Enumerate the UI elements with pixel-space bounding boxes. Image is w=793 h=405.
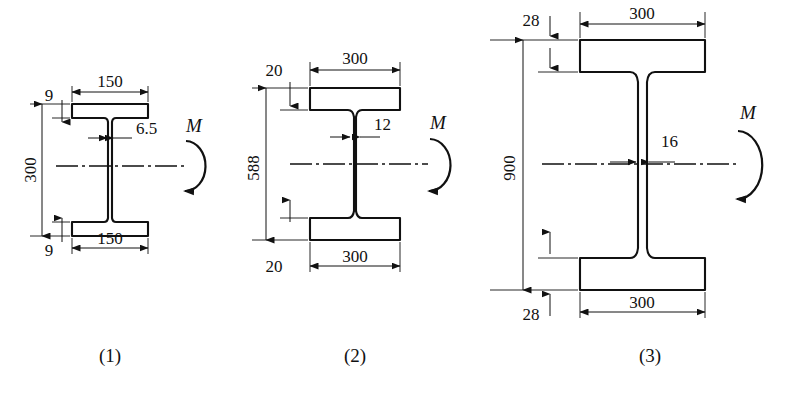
section-3-bfw-label: 300 xyxy=(629,293,655,312)
section-3-group: 900 28 28 300 300 16 xyxy=(490,4,762,367)
section-2-moment-arc xyxy=(429,139,451,191)
section-2-bfw-label: 300 xyxy=(342,247,368,266)
section-1-tft-label: 9 xyxy=(45,86,54,105)
section-1-group: 300 9 9 150 150 6.5 M xyxy=(21,72,206,367)
section-2-height-label: 588 xyxy=(244,155,263,181)
section-2-group: 588 20 20 300 300 12 M xyxy=(244,49,451,367)
section-1-height-label: 300 xyxy=(21,157,40,183)
section-1-moment-arc xyxy=(185,141,206,191)
beam-sections-figure: 300 9 9 150 150 6.5 M xyxy=(0,0,793,405)
section-1-bft-label: 9 xyxy=(45,241,54,260)
section-2-web-label: 12 xyxy=(374,115,391,134)
section-3-tfw-label: 300 xyxy=(629,4,655,23)
section-3-profile xyxy=(580,40,705,290)
section-1-web-label: 6.5 xyxy=(136,119,157,138)
section-2-moment-label: M xyxy=(429,112,447,133)
section-3-caption: (3) xyxy=(639,345,661,367)
section-3-moment-label: M xyxy=(739,102,757,123)
section-3-moment-arc xyxy=(737,131,762,199)
section-2-bft-label: 20 xyxy=(266,257,283,276)
section-2-tfw-label: 300 xyxy=(342,49,368,68)
section-1-tfw-label: 150 xyxy=(97,72,123,91)
section-1-moment-label: M xyxy=(185,115,203,136)
section-1-bfw-label: 150 xyxy=(97,229,123,248)
section-1-caption: (1) xyxy=(99,345,121,367)
section-3-web-label: 16 xyxy=(661,132,678,151)
section-3-tft-label: 28 xyxy=(523,11,540,30)
section-2-tft-label: 20 xyxy=(266,61,283,80)
section-3-height-label: 900 xyxy=(500,155,519,181)
section-2-caption: (2) xyxy=(344,345,366,367)
engineering-drawing-canvas: 300 9 9 150 150 6.5 M xyxy=(0,0,793,405)
section-3-bft-label: 28 xyxy=(523,305,540,324)
